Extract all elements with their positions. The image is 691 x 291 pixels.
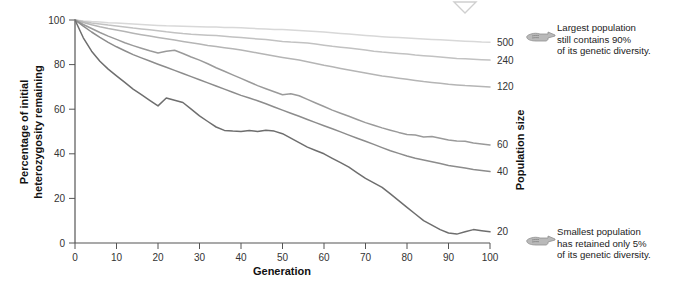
series-line-20	[75, 20, 490, 234]
x-tick-label: 10	[111, 252, 123, 263]
y-tick-label: 80	[54, 59, 66, 70]
figure-container: 020406080100 0102030405060708090100 5002…	[0, 0, 691, 291]
pointing-hand-icon	[526, 231, 556, 249]
annotation-smallest-population: Smallest population has retained only 5%…	[557, 226, 651, 261]
series-label-120: 120	[497, 81, 514, 92]
y2-axis-title: Population size	[514, 110, 526, 191]
y-axis-title-line2: heterozygosity remaining	[32, 65, 44, 198]
x-tick-label: 40	[235, 252, 247, 263]
series-line-500	[75, 20, 490, 42]
y-tick-label: 100	[48, 15, 65, 26]
pointing-hand-icon	[526, 27, 556, 45]
series-end-labels: 500240120604020	[497, 37, 514, 238]
series-label-40: 40	[497, 166, 509, 177]
y-tick-label: 20	[54, 193, 66, 204]
x-tick-label: 80	[401, 252, 413, 263]
y-tick-label: 0	[59, 238, 65, 249]
y-axis-title: Percentage of initial heterozygosity rem…	[18, 65, 44, 198]
x-tick-label: 70	[360, 252, 372, 263]
series-label-20: 20	[497, 226, 509, 237]
series-lines	[75, 20, 490, 234]
x-tick-label: 20	[152, 252, 164, 263]
series-label-500: 500	[497, 37, 514, 48]
annotation-largest-population: Largest population still contains 90% of…	[557, 22, 651, 57]
x-tick-label: 0	[72, 252, 78, 263]
series-line-40	[75, 20, 490, 172]
y-axis-title-line1: Percentage of initial	[18, 80, 30, 185]
x-tick-label: 100	[482, 252, 499, 263]
series-label-240: 240	[497, 55, 514, 66]
x-tick-label: 50	[277, 252, 289, 263]
x-axis-ticks: 0102030405060708090100	[72, 243, 499, 263]
chart-axes	[75, 20, 490, 243]
x-tick-label: 90	[443, 252, 455, 263]
x-tick-label: 30	[194, 252, 206, 263]
y-axis-ticks: 020406080100	[48, 15, 75, 249]
y-tick-label: 40	[54, 148, 66, 159]
series-label-60: 60	[497, 139, 509, 150]
x-tick-label: 60	[318, 252, 330, 263]
series-line-240	[75, 20, 490, 60]
y-tick-label: 60	[54, 104, 66, 115]
x-axis-title: Generation	[253, 265, 311, 277]
